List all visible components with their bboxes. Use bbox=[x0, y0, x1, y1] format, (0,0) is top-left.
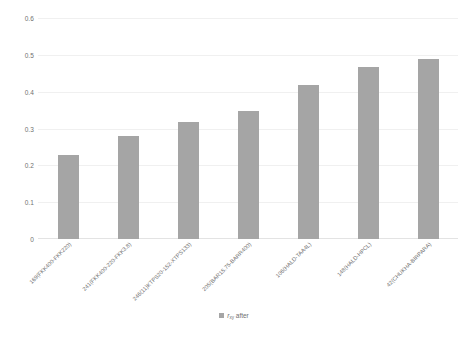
x-label-slot: 42(CHUKHA-BIRPARA) bbox=[398, 239, 458, 305]
bar[interactable] bbox=[178, 122, 199, 239]
bar-slot bbox=[218, 18, 278, 239]
legend-item[interactable]: rxy after bbox=[219, 312, 249, 319]
x-label-slot: 205(BAR15.75-BARR400) bbox=[218, 239, 278, 305]
bar-slot bbox=[158, 18, 218, 239]
y-tick-label: 0.5 bbox=[25, 51, 34, 58]
chart-plot-wrapper: 0.6 0.5 0.4 0.3 0.2 0.1 0 bbox=[0, 0, 468, 345]
y-tick-label: 0.4 bbox=[25, 88, 34, 95]
x-label-slot: 169(FKK400-FKK220) bbox=[38, 239, 98, 305]
legend-subscript: xy bbox=[229, 315, 234, 320]
bar-series bbox=[38, 18, 458, 239]
bar-slot bbox=[38, 18, 98, 239]
x-axis-labels: 169(FKK400-FKK220) 241(FKK400-220-FKK3.8… bbox=[38, 239, 458, 305]
bar[interactable] bbox=[238, 111, 259, 239]
x-tick-label: 148(HALD-HPCL) bbox=[336, 241, 372, 277]
bar-slot bbox=[338, 18, 398, 239]
plot-area bbox=[38, 18, 458, 239]
bar[interactable] bbox=[358, 67, 379, 239]
chart-legend: rxy after bbox=[0, 312, 468, 319]
x-tick-label: 106(HALD-TAA4L) bbox=[275, 241, 313, 279]
x-label-slot: 106(HALD-TAA4L) bbox=[278, 239, 338, 305]
x-label-slot: 241(FKK400-220-FKK3.8) bbox=[98, 239, 158, 305]
bar[interactable] bbox=[418, 59, 439, 239]
bar[interactable] bbox=[58, 155, 79, 239]
y-tick-label: 0.3 bbox=[25, 125, 34, 132]
x-label-slot: 246(11)KTPS20-152-XTPS133) bbox=[158, 239, 218, 305]
bar[interactable] bbox=[118, 136, 139, 239]
legend-label: rxy after bbox=[227, 312, 249, 319]
bar-slot bbox=[278, 18, 338, 239]
y-axis: 0.6 0.5 0.4 0.3 0.2 0.1 0 bbox=[0, 0, 38, 250]
y-tick-label: 0.1 bbox=[25, 199, 34, 206]
bar-chart: 0.6 0.5 0.4 0.3 0.2 0.1 0 bbox=[0, 0, 468, 345]
bar-slot bbox=[98, 18, 158, 239]
bar[interactable] bbox=[298, 85, 319, 239]
bar-slot bbox=[398, 18, 458, 239]
y-tick-label: 0.6 bbox=[25, 15, 34, 22]
legend-swatch-icon bbox=[219, 313, 224, 318]
x-label-slot: 148(HALD-HPCL) bbox=[338, 239, 398, 305]
y-tick-label: 0.2 bbox=[25, 162, 34, 169]
legend-suffix: after bbox=[234, 312, 249, 319]
y-tick-label: 0 bbox=[30, 236, 34, 243]
